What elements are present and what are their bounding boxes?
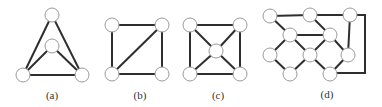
subfigure-label-d: (d) <box>321 88 334 101</box>
subfigure-label-c: (c) <box>212 89 225 102</box>
graph-node <box>16 68 30 82</box>
edges-b <box>112 25 162 74</box>
graph-figure: (a) (b) (c) (d) <box>0 0 382 107</box>
graph-node <box>283 67 297 81</box>
nodes-a <box>16 8 89 82</box>
graph-node <box>263 9 277 23</box>
graph-node <box>303 8 317 22</box>
edge <box>112 25 162 74</box>
graph-node <box>343 8 357 22</box>
graph-node <box>323 67 337 81</box>
graph-node <box>155 67 169 81</box>
graph-node <box>263 48 277 62</box>
graph-node <box>323 28 337 42</box>
subfigure-d: (d) <box>263 8 365 101</box>
graph-node <box>105 67 119 81</box>
nodes-c <box>183 18 247 81</box>
graph-node <box>233 18 247 32</box>
graph-node <box>183 18 197 32</box>
graph-node <box>183 67 197 81</box>
graph-node <box>303 48 317 62</box>
subfigure-b: (b) <box>105 18 169 102</box>
bracket-edge <box>330 15 365 73</box>
edges-d <box>270 15 365 74</box>
subfigure-label-a: (a) <box>46 89 59 102</box>
subfigure-label-b: (b) <box>134 89 147 102</box>
graph-node <box>209 44 223 58</box>
graph-node <box>75 68 89 82</box>
graph-node <box>233 67 247 81</box>
graph-node <box>155 18 169 32</box>
subfigure-a: (a) <box>16 8 89 102</box>
subfigure-c: (c) <box>183 18 247 102</box>
graph-node <box>341 48 355 62</box>
graph-node <box>45 8 59 22</box>
graph-node <box>45 39 59 53</box>
nodes-d <box>263 8 357 81</box>
graph-node <box>105 18 119 32</box>
graph-node <box>283 28 297 42</box>
